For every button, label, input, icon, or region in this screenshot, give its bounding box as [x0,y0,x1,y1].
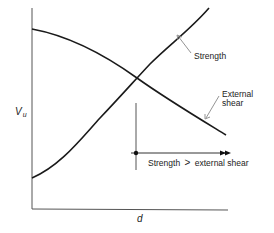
shear-strength-diagram: Vu d Strength External shear Strength > … [0,0,274,233]
external-shear-curve [32,29,226,135]
external-shear-leader-line [206,96,219,118]
double-arrowhead-icon-2 [225,151,231,156]
region-annotation: Strength > external shear [148,157,249,168]
y-axis-label: Vu [15,106,27,118]
strength-leader-line [178,36,191,53]
x-axis [32,209,228,210]
x-axis-label: d [137,213,143,224]
boundary-point [134,151,138,155]
external-shear-label-line2: shear [222,98,243,108]
strength-label: Strength [194,51,226,61]
